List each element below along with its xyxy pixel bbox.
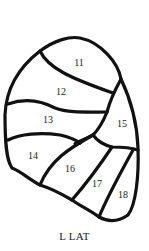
boundary-13-14 (8, 134, 80, 143)
segment-label-18: 18 (118, 189, 128, 200)
boundary-14-16 (40, 135, 93, 185)
segment-label-12: 12 (56, 86, 66, 97)
segment-label-14: 14 (28, 150, 38, 161)
myocardial-segment-diagram: 11 12 13 14 15 16 17 18 (0, 0, 149, 251)
boundary-15-bottom (93, 135, 138, 150)
view-caption: L LAT (0, 230, 149, 242)
segment-label-16: 16 (65, 163, 75, 174)
segment-label-13: 13 (43, 114, 53, 125)
segment-label-15: 15 (117, 118, 127, 129)
segment-label-11: 11 (74, 57, 84, 68)
boundary-16-17 (72, 147, 112, 200)
boundary-12-13 (8, 101, 107, 113)
segment-label-17: 17 (92, 178, 102, 189)
